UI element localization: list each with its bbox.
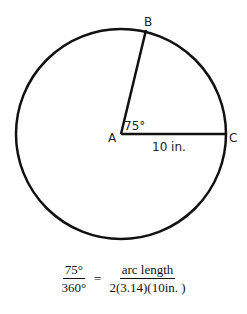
radius-label: 10 in. <box>152 140 186 154</box>
left-denominator: 360° <box>59 279 88 295</box>
point-label-c: C <box>229 131 237 145</box>
circle-diagram: B A C 75° 10 in. <box>0 0 247 255</box>
point-label-b: B <box>144 15 152 29</box>
right-numerator: arc length <box>120 262 176 279</box>
equals-sign: = <box>94 271 101 287</box>
arc-length-equation: 75° 360° = arc length 2(3.14)(10in. ) <box>0 262 247 295</box>
point-label-a: A <box>108 131 117 145</box>
left-fraction: 75° 360° <box>59 262 88 295</box>
right-fraction: arc length 2(3.14)(10in. ) <box>107 262 187 295</box>
right-denominator: 2(3.14)(10in. ) <box>107 279 187 295</box>
left-numerator: 75° <box>63 262 85 279</box>
angle-label: 75° <box>124 119 145 133</box>
